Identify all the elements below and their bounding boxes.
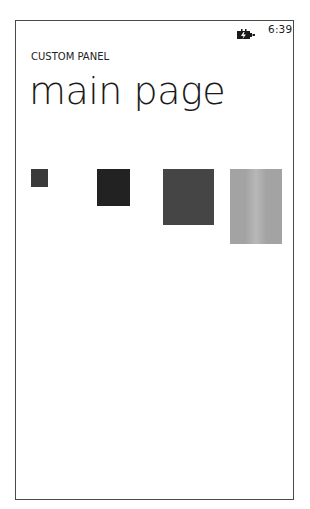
panel-square-3 xyxy=(163,169,214,225)
phone-screen: 6:39 CUSTOM PANEL main page xyxy=(15,20,294,500)
panel-square-4 xyxy=(230,169,282,244)
panel-square-1 xyxy=(31,169,48,187)
custom-panel xyxy=(16,21,293,499)
panel-square-2 xyxy=(97,169,130,206)
